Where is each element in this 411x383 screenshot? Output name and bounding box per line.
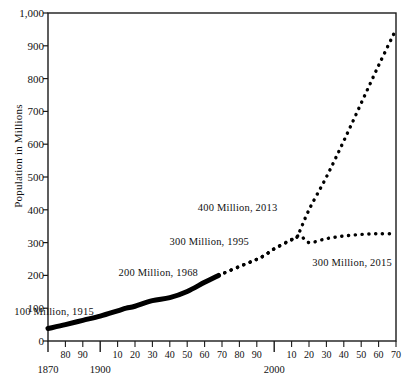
x-major-label: 1900	[90, 365, 111, 376]
x-tick-label: 90	[78, 350, 88, 360]
annotation-label: 300 Million, 2015	[312, 258, 392, 269]
x-tick-label: 20	[304, 350, 314, 360]
annotation-label: 200 Million, 1968	[119, 268, 199, 279]
annotation-label: 100 Million, 1915	[14, 307, 94, 318]
x-tick-label: 70	[391, 350, 401, 360]
chart-plot-area	[0, 0, 411, 383]
x-tick-label: 30	[321, 350, 331, 360]
annotation-label: 400 Million, 2013	[198, 203, 278, 214]
x-tick-label: 80	[234, 350, 244, 360]
x-tick-label: 50	[182, 350, 192, 360]
chart-container: Population in Millions 01002003004005006…	[0, 0, 411, 383]
x-tick-label: 70	[217, 350, 227, 360]
x-tick-label: 20	[130, 350, 140, 360]
x-tick-label: 40	[339, 350, 349, 360]
x-tick-label: 80	[60, 350, 70, 360]
x-major-label: 2000	[264, 365, 285, 376]
annotation-label: 300 Million, 1995	[170, 237, 250, 248]
x-tick-label: 40	[165, 350, 175, 360]
x-tick-label: 10	[113, 350, 123, 360]
series-line-0	[48, 275, 219, 328]
x-major-label: 1870	[38, 365, 59, 376]
plot-frame	[48, 13, 396, 341]
x-tick-label: 60	[374, 350, 384, 360]
x-tick-label: 10	[287, 350, 297, 360]
x-tick-label: 50	[356, 350, 366, 360]
x-tick-label: 60	[200, 350, 210, 360]
x-tick-label: 90	[252, 350, 262, 360]
x-tick-label: 30	[147, 350, 157, 360]
